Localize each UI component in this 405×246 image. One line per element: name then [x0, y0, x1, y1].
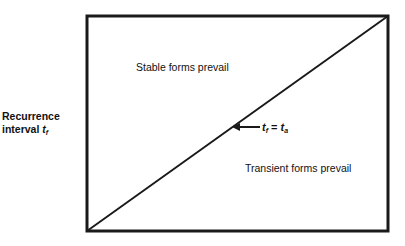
y-axis-label: Recurrence interval tf [2, 110, 60, 139]
diagonal-line [87, 16, 388, 231]
diagonal-equation-label: tf = ta [262, 121, 288, 134]
diagram-canvas [0, 0, 405, 246]
y-axis-label-line2: interval tf [2, 123, 60, 139]
region-label-stable: Stable forms prevail [136, 61, 229, 73]
y-axis-label-line1: Recurrence [2, 110, 60, 123]
region-label-transient: Transient forms prevail [245, 162, 351, 174]
